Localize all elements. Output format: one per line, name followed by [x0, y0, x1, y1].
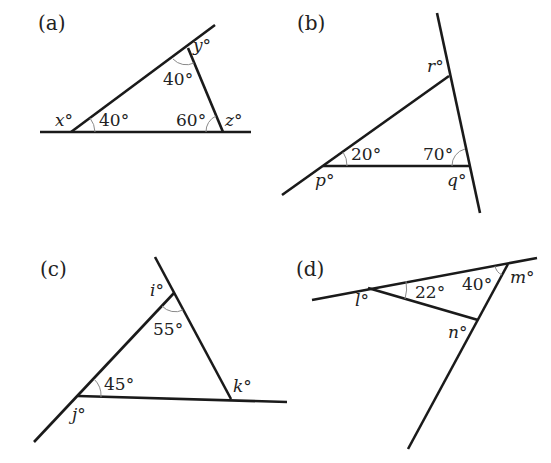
panel-label-c: (c)	[40, 257, 67, 281]
unknown-q: q°	[447, 170, 466, 190]
angle-label-c-i: 55°	[153, 319, 183, 339]
angle-label-b-p: 20°	[351, 144, 381, 164]
diagram-b: (b) r° p° q° 20° 70°	[282, 11, 480, 213]
angle-arc-z	[206, 116, 216, 132]
angle-diagrams: (a) x° y° z° 40° 40° 60° (b) r° p° q° 20…	[0, 0, 551, 463]
base-line-c	[78, 396, 287, 402]
unknown-k: k°	[233, 376, 252, 396]
angle-label-b-q: 70°	[423, 144, 453, 164]
angle-label-a-y: 40°	[163, 69, 193, 89]
angle-label-a-x: 40°	[99, 110, 129, 130]
panel-label-a: (a)	[38, 11, 66, 35]
diagram-c: (c) i° j° k° 55° 45°	[34, 257, 287, 442]
panel-label-b: (b)	[297, 11, 325, 35]
angle-label-d-l: 22°	[415, 282, 445, 302]
diagram-d: (d) l° m° n° 22° 40°	[296, 257, 537, 449]
unknown-x: x°	[55, 110, 73, 130]
slant-line-b	[282, 76, 449, 195]
angle-label-c-j: 45°	[104, 374, 134, 394]
unknown-j: j°	[68, 404, 86, 424]
unknown-n: n°	[448, 322, 467, 342]
unknown-i: i°	[150, 280, 164, 300]
angle-arc-x	[90, 118, 95, 132]
unknown-r: r°	[427, 56, 444, 76]
panel-label-d: (d)	[296, 257, 324, 281]
angle-arc-p	[343, 152, 347, 166]
unknown-m: m°	[510, 267, 535, 287]
angle-arc-i	[162, 306, 183, 312]
angle-arc-y	[173, 59, 194, 65]
angle-label-d-m: 40°	[462, 274, 492, 294]
angle-label-a-z: 60°	[176, 110, 206, 130]
slant-line-c	[34, 293, 174, 442]
unknown-l: l°	[355, 290, 369, 310]
angle-arc-q	[452, 149, 465, 166]
unknown-p: p°	[315, 170, 334, 190]
unknown-y: y°	[192, 35, 211, 55]
unknown-z: z°	[224, 110, 242, 130]
diagram-a: (a) x° y° z° 40° 40° 60°	[38, 11, 251, 132]
angle-arc-m	[495, 266, 502, 275]
angle-arc-j	[94, 379, 101, 397]
